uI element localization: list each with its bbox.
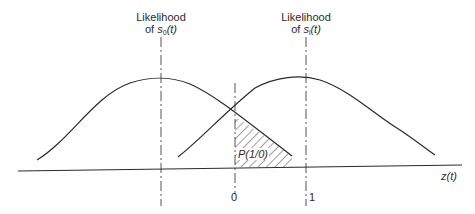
t-arg: (t): [167, 23, 177, 35]
of-text: of: [291, 23, 303, 35]
s1-label-line2: of sl(t): [270, 23, 342, 39]
x-axis-label: z(t): [441, 170, 457, 182]
s0-label-line2: of s0(t): [125, 23, 197, 39]
s0-likelihood-label: Likelihood of s0(t): [125, 11, 197, 39]
of-text: of: [145, 23, 157, 35]
s0-label-line1: Likelihood: [125, 11, 197, 23]
s1-likelihood-label: Likelihood of sl(t): [270, 11, 342, 39]
shaded-region-label: P(1/0): [237, 148, 269, 160]
tick-zero: 0: [231, 191, 237, 203]
t-arg: (t): [310, 23, 320, 35]
tick-one: 1: [309, 191, 315, 203]
s1-label-line1: Likelihood: [270, 11, 342, 23]
likelihood-diagram: [0, 0, 475, 214]
curve-s1: [178, 77, 435, 157]
